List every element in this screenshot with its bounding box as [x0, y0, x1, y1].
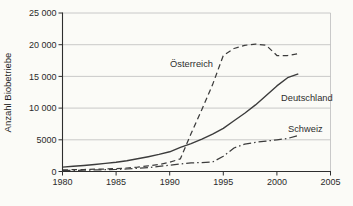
x-tick-label: 2005 [320, 177, 340, 187]
y-axis-title: Anzahl Biobetriebe [2, 53, 13, 133]
biobetriebe-chart-page: 0500010 00015 00020 00025 00019801985199… [0, 0, 353, 206]
x-tick-label: 1980 [52, 177, 72, 187]
x-tick-label: 2000 [267, 177, 287, 187]
series-label-oesterreich: Österreich [170, 59, 213, 69]
line-chart: 0500010 00015 00020 00025 00019801985199… [0, 0, 353, 206]
y-tick-label: 0 [51, 167, 56, 177]
y-tick-label: 25 000 [29, 8, 57, 18]
series-label-schweiz: Schweiz [288, 124, 323, 134]
y-tick-label: 10 000 [29, 103, 57, 113]
x-tick-label: 1990 [160, 177, 180, 187]
y-tick-label: 5000 [36, 135, 56, 145]
y-tick-label: 15 000 [29, 72, 57, 82]
x-tick-label: 1995 [213, 177, 233, 187]
series-label-deutschland: Deutschland [281, 93, 333, 103]
y-tick-label: 20 000 [29, 40, 57, 50]
x-tick-label: 1985 [106, 177, 126, 187]
